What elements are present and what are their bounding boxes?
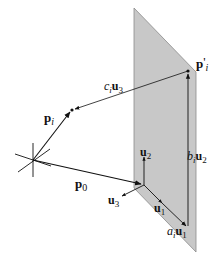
label-c-i-u3: ciu3 — [104, 79, 124, 95]
vector-p-0 — [33, 160, 141, 184]
label-b-i-u2: biu2 — [187, 149, 207, 165]
projection-diagram: p'i ciu3 pi p0 u2 u3 u1 aiu1 biu2 — [0, 0, 224, 265]
label-u3: u3 — [108, 193, 120, 209]
label-p-prime-i: p'i — [196, 54, 209, 73]
point-p-prime-i — [186, 69, 189, 72]
label-p-i: pi — [44, 110, 54, 127]
point-p-i — [70, 108, 73, 111]
label-p-0: p0 — [75, 176, 87, 193]
